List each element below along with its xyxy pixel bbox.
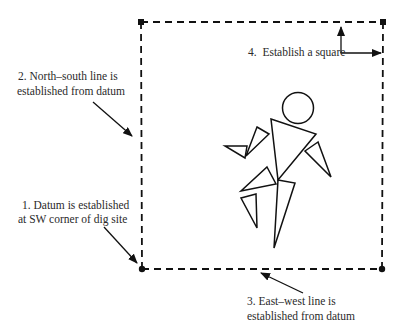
dig-site-diagram: 2. North–south line is established from … <box>0 0 405 333</box>
arrow-step3 <box>261 273 303 293</box>
sw-datum-marker <box>139 266 145 272</box>
step1-label: 1. Datum is established at SW corner of … <box>18 199 132 226</box>
step3-line2: established from datum <box>247 310 355 322</box>
step4-label: 4. Establish a square <box>248 46 345 59</box>
arrow-step1 <box>104 227 137 263</box>
east-line <box>382 22 383 269</box>
running-person-icon <box>225 93 331 249</box>
step2-line2: established from datum <box>17 85 125 97</box>
step4-line1: 4. Establish a square <box>248 46 345 59</box>
ne-corner-marker <box>380 19 386 25</box>
figure-lower-leg <box>241 194 257 228</box>
step2-label: 2. North–south line is established from … <box>17 70 125 97</box>
se-corner-marker <box>379 266 385 272</box>
figure-long-leg <box>274 180 295 248</box>
step3-line1: 3. East–west line is <box>247 295 336 307</box>
step3-label: 3. East–west line is established from da… <box>247 295 355 322</box>
arrow-step2 <box>93 102 132 136</box>
figure-thigh <box>241 167 276 191</box>
figure-head <box>283 93 314 124</box>
step2-line1: 2. North–south line is <box>18 70 118 82</box>
figure-right-arm <box>305 142 331 177</box>
figure-hand <box>225 146 247 158</box>
nw-corner-marker <box>138 19 144 25</box>
figure-torso <box>271 119 316 180</box>
site-square <box>141 22 383 269</box>
figure-upper-arm <box>246 127 269 156</box>
step1-line2: at SW corner of dig site <box>18 213 127 226</box>
west-line <box>141 22 142 269</box>
step1-line1: 1. Datum is established <box>22 199 130 211</box>
